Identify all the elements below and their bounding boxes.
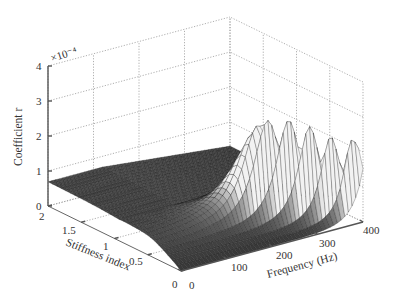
x-tick-200: 200: [276, 249, 293, 261]
y-tick-1.5: 1.5: [62, 224, 76, 236]
y-tick-0: 0: [172, 278, 178, 290]
z-axis-label: Coefficient r: [12, 108, 24, 166]
z-exponent-label: ×10⁻⁴: [49, 44, 78, 64]
z-tick-2: 2: [36, 130, 42, 142]
x-tick-0: 0: [189, 279, 195, 291]
z-tick-4: 4: [36, 60, 42, 72]
x-tick-300: 300: [319, 237, 336, 249]
x-tick-400: 400: [363, 224, 380, 236]
y-axis-label: Stiffness index: [64, 236, 132, 273]
z-tick-1: 1: [36, 165, 42, 177]
x-tick-100: 100: [231, 261, 248, 273]
y-tick-2: 2: [39, 210, 45, 222]
z-tick-3: 3: [36, 95, 42, 107]
surface-chart: 0 1 2 3 4 ×10⁻⁴ Coefficient r 2 1.5 1 0.…: [0, 0, 396, 299]
chart-canvas: 0 1 2 3 4 ×10⁻⁴ Coefficient r 2 1.5 1 0.…: [0, 0, 396, 299]
